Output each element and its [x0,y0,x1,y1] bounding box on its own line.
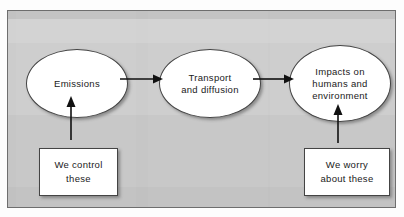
diagram-canvas: Emissions Transport and diffusion Impact… [0,0,404,217]
node-impacts-line2: humans and [306,78,374,90]
node-we-worry-about-these[interactable]: We worry about these [304,148,390,196]
node-we-control-line1: We control [48,158,108,172]
node-impacts-line1: Impacts on [306,66,374,78]
background-band-light [8,19,395,43]
node-impacts-line3: environment [306,90,374,102]
node-we-control-label: We control these [42,158,114,186]
node-we-worry-line2: about these [315,172,380,186]
node-emissions[interactable]: Emissions [26,49,128,118]
background-band-top [8,11,395,19]
node-transport-line2: and diffusion [175,84,245,96]
node-we-control-line2: these [48,172,108,186]
arrow-we-control-to-emissions-icon [65,94,77,141]
arrow-emissions-to-transport-icon [120,73,164,85]
diagram-frame: Emissions Transport and diffusion Impact… [7,10,396,208]
node-we-control-these[interactable]: We control these [39,148,118,196]
arrow-we-worry-to-impacts-icon [332,102,344,144]
node-we-worry-label: We worry about these [309,158,386,186]
node-transport-label: Transport and diffusion [169,72,251,96]
node-transport-line1: Transport [175,72,245,84]
arrow-transport-to-impacts-icon [253,73,295,85]
node-impacts-label: Impacts on humans and environment [300,66,380,102]
node-we-worry-line1: We worry [315,158,380,172]
node-transport-and-diffusion[interactable]: Transport and diffusion [159,49,261,118]
node-emissions-label: Emissions [48,78,106,90]
